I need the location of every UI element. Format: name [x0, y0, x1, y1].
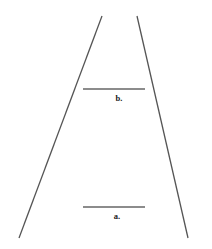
left-converging-line — [19, 16, 102, 238]
right-converging-line — [137, 16, 188, 238]
label-b: b. — [116, 93, 123, 103]
label-a: a. — [114, 211, 120, 221]
ponzo-diagram: b. a. — [0, 0, 212, 249]
